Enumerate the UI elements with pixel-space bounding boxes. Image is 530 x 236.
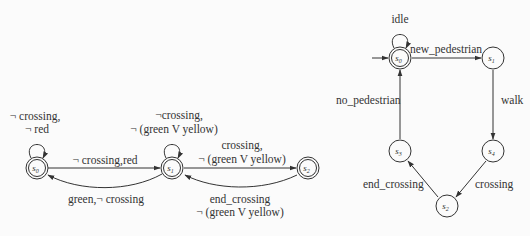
- right-state-s4: s4: [482, 140, 504, 162]
- left-s2-s1-label-2: ¬ (green V yellow): [196, 206, 284, 219]
- right-state-s0: s0: [389, 47, 411, 69]
- left-s1-self-loop: [164, 145, 179, 159]
- left-state-s1: s1: [161, 157, 183, 179]
- diagram-svg: ¬ crossing, ¬ red ¬ crossing,red green,¬…: [0, 0, 530, 236]
- left-s2-s1-label-1: end_crossing: [210, 193, 271, 206]
- left-s0-self-loop: [29, 145, 44, 159]
- left-s1-self-label-2: ¬ (green V yellow): [130, 123, 218, 136]
- left-s1-s0-label: green,¬ crossing: [68, 193, 144, 206]
- right-s3-s0-label: no_pedestrian: [336, 94, 401, 107]
- right-s0-s1-label: new_pedestrian: [410, 43, 482, 56]
- left-state-s0: s0: [26, 157, 48, 179]
- right-s0-self-loop: [392, 35, 407, 49]
- right-state-s3: s3: [389, 140, 411, 162]
- right-s4-s2-label: crossing: [475, 178, 514, 191]
- left-s1-s0-edge: [48, 174, 162, 188]
- right-automaton: idle new_pedestrian walk crossing end_cr…: [336, 13, 524, 217]
- left-s0-s1-label: ¬ crossing,red: [72, 154, 137, 167]
- right-s0-self-label: idle: [391, 13, 408, 25]
- automata-figure: ¬ crossing, ¬ red ¬ crossing,red green,¬…: [0, 0, 530, 236]
- right-state-s2: s2: [436, 195, 458, 217]
- left-s0-self-label-1: ¬ crossing,: [10, 110, 61, 123]
- left-s1-s2-label-2: ¬ (green V yellow): [198, 153, 286, 166]
- left-s0-self-label-2: ¬ red: [25, 123, 49, 135]
- right-state-s1: s1: [482, 47, 504, 69]
- left-state-s2: s2: [297, 157, 319, 179]
- left-automaton: ¬ crossing, ¬ red ¬ crossing,red green,¬…: [10, 109, 319, 219]
- left-s1-self-label-1: ¬crossing,: [155, 109, 203, 122]
- right-s2-s3-label: end_crossing: [363, 178, 424, 191]
- left-s2-s1-edge: [185, 175, 297, 187]
- right-s1-s4-label: walk: [501, 94, 524, 106]
- left-s1-s2-label-1: crossing,: [221, 139, 262, 152]
